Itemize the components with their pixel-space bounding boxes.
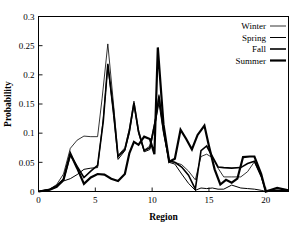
y-tick-label: 0.1	[23, 128, 34, 138]
y-tick-label: 0.15	[19, 99, 35, 109]
x-tick-label: 5	[93, 195, 98, 205]
legend-label-summer: Summer	[236, 56, 267, 66]
y-tick-label: 0	[30, 187, 35, 197]
chart-figure: 00.050.10.150.20.250.305101520RegionProb…	[0, 0, 298, 238]
legend-label-winter: Winter	[241, 21, 266, 31]
y-tick-label: 0.05	[19, 158, 35, 168]
series-line-summer	[39, 47, 289, 191]
series-layer	[39, 44, 289, 192]
x-axis-title: Region	[149, 212, 178, 222]
x-tick-label: 20	[261, 195, 271, 205]
legend-label-spring: Spring	[242, 33, 267, 43]
legend-label-fall: Fall	[252, 44, 267, 54]
x-tick-label: 0	[36, 195, 41, 205]
x-tick-label: 10	[148, 195, 158, 205]
x-tick-label: 15	[204, 195, 214, 205]
line-chart: 00.050.10.150.20.250.305101520RegionProb…	[0, 0, 298, 238]
y-axis-title: Probability	[3, 81, 13, 127]
legend-layer: WinterSpringFallSummer	[236, 21, 287, 65]
y-tick-label: 0.2	[23, 70, 34, 80]
y-tick-label: 0.3	[23, 12, 35, 22]
y-tick-label: 0.25	[19, 41, 35, 51]
